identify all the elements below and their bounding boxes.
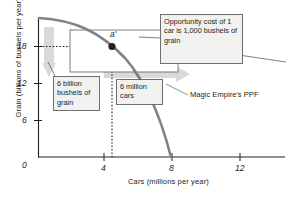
point-a-prime-marker — [108, 43, 115, 50]
callout-cars-shift: 6 million cars — [116, 79, 163, 105]
x-tick-label-12: 12 — [235, 163, 245, 173]
ppf-leader-line — [166, 84, 188, 95]
ppf-figure: Grain (billions of bushels per year) Car… — [0, 0, 290, 197]
y-tick-label-0: 0 — [22, 160, 27, 170]
x-axis-title: Cars (millions per year) — [128, 178, 209, 187]
point-a-prime-label: a' — [110, 30, 116, 40]
x-tick-label-8: 8 — [169, 163, 174, 173]
callout-grain-shift: 6 billion bushels of grain — [53, 76, 100, 111]
callout-opportunity-cost: Opportunity cost of 1 car is 1,000 bushe… — [160, 14, 243, 64]
y-tick-label-6: 6 — [22, 115, 27, 125]
ppf-curve-label: Magic Empire's PPF — [190, 91, 259, 100]
y-axis-title: Grain (billions of bushels per year) — [15, 7, 24, 117]
y-tick-label-18: 18 — [17, 41, 27, 51]
x-tick-label-4: 4 — [101, 163, 106, 173]
y-tick-label-12: 12 — [17, 78, 27, 88]
grain-shift-arrow — [42, 27, 56, 77]
